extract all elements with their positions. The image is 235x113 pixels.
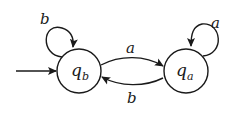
state-qb: q b <box>57 49 101 93</box>
edge-qb-to-qa <box>101 58 163 66</box>
edge-qa-to-qb <box>102 77 163 85</box>
state-qa-label: q <box>176 60 187 80</box>
automaton-svg: q b q a b a a b <box>0 0 235 113</box>
state-qb-label: q <box>71 60 82 80</box>
state-qa: q a <box>164 49 208 93</box>
loop-qb-edge <box>46 27 73 57</box>
loop-qa-symbol: a <box>211 14 220 32</box>
loop-qb-symbol: b <box>40 10 50 28</box>
automaton-diagram: q b q a b a a b <box>0 0 235 113</box>
edge-qb-to-qa-symbol: a <box>126 39 135 57</box>
state-qb-subscript: b <box>82 70 89 83</box>
edge-qa-to-qb-symbol: b <box>127 89 137 107</box>
state-qa-subscript: a <box>187 70 194 83</box>
